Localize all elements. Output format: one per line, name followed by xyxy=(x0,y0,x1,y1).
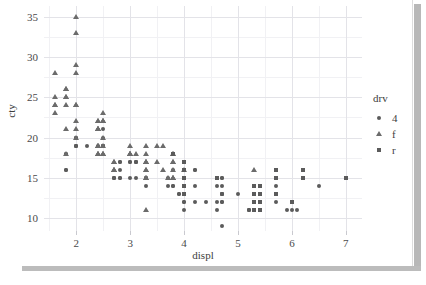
data-point-f xyxy=(73,70,79,75)
page-shadow-right xyxy=(414,4,421,270)
legend: drv 4fr xyxy=(372,92,414,158)
x-tick-label: 3 xyxy=(127,238,133,249)
y-tick-label: 10 xyxy=(27,213,38,224)
y-tick-label: 25 xyxy=(27,92,38,103)
data-point-4 xyxy=(128,160,132,164)
data-point-f xyxy=(111,167,117,172)
data-point-f xyxy=(143,151,149,156)
x-tick-mark xyxy=(238,231,239,235)
legend-label: f xyxy=(386,128,396,140)
data-point-4 xyxy=(112,176,116,180)
data-point-r xyxy=(252,208,256,212)
data-point-f xyxy=(52,110,58,115)
data-point-4 xyxy=(236,192,240,196)
data-point-f xyxy=(95,151,101,156)
data-point-f xyxy=(52,70,58,75)
legend-key-square-icon xyxy=(372,143,386,157)
data-point-f xyxy=(170,167,176,172)
y-tick-label: 30 xyxy=(27,51,38,62)
data-point-f xyxy=(63,102,69,107)
data-point-4 xyxy=(247,208,251,212)
data-point-4 xyxy=(274,184,278,188)
data-point-r xyxy=(301,176,305,180)
gridline-major-vertical xyxy=(292,6,293,231)
data-point-f xyxy=(73,102,79,107)
data-point-4 xyxy=(177,192,181,196)
data-point-r xyxy=(215,176,219,180)
data-point-r xyxy=(182,176,186,180)
gridline-major-horizontal xyxy=(44,218,362,219)
gridline-major-vertical xyxy=(346,6,347,231)
data-point-4 xyxy=(317,184,321,188)
data-point-4 xyxy=(128,176,132,180)
data-point-r xyxy=(274,168,278,172)
data-point-f xyxy=(143,175,149,180)
x-tick-mark xyxy=(184,231,185,235)
screenshot-root: 101520253035 cty 234567 displ drv 4fr xyxy=(0,0,426,285)
data-point-4 xyxy=(182,208,186,212)
data-point-4 xyxy=(74,144,78,148)
data-point-f xyxy=(52,102,58,107)
x-tick-label: 2 xyxy=(74,238,80,249)
data-point-4 xyxy=(101,127,105,131)
data-point-f xyxy=(127,151,133,156)
gridline-major-vertical xyxy=(130,6,131,231)
square-glyph-icon xyxy=(377,148,381,152)
scatter-plot-figure: 101520253035 cty 234567 displ drv 4fr xyxy=(0,0,412,266)
data-point-4 xyxy=(166,184,170,188)
data-point-4 xyxy=(171,184,175,188)
data-point-f xyxy=(73,14,79,19)
data-point-4 xyxy=(64,168,68,172)
data-point-f xyxy=(73,118,79,123)
data-point-4 xyxy=(220,176,224,180)
legend-entries: 4fr xyxy=(372,110,414,158)
data-point-r xyxy=(182,160,186,164)
gridline-minor-horizontal xyxy=(44,77,362,78)
data-point-4 xyxy=(290,208,294,212)
page-edge xyxy=(412,0,413,267)
x-tick-label: 6 xyxy=(289,238,295,249)
legend-title: drv xyxy=(372,92,414,104)
data-point-f xyxy=(251,167,257,172)
y-tick-label: 35 xyxy=(27,11,38,22)
data-point-f xyxy=(170,159,176,164)
legend-entry-4: 4 xyxy=(372,110,414,126)
data-point-r xyxy=(301,168,305,172)
data-point-4 xyxy=(220,192,224,196)
x-tick-label: 5 xyxy=(235,238,241,249)
data-point-4 xyxy=(215,208,219,212)
data-point-f xyxy=(73,30,79,35)
gridline-major-horizontal xyxy=(44,178,362,179)
data-point-4 xyxy=(134,160,138,164)
data-point-f xyxy=(95,126,101,131)
gridline-major-vertical xyxy=(238,6,239,231)
data-point-f xyxy=(143,207,149,212)
triangle-glyph-icon xyxy=(376,131,382,136)
gridline-major-horizontal xyxy=(44,57,362,58)
data-point-4 xyxy=(274,200,278,204)
data-point-r xyxy=(258,200,262,204)
data-point-4 xyxy=(215,184,219,188)
data-point-4 xyxy=(144,184,148,188)
data-point-4 xyxy=(193,184,197,188)
gridline-major-horizontal xyxy=(44,97,362,98)
x-axis-ticks: 234567 xyxy=(44,231,362,251)
data-point-4 xyxy=(220,184,224,188)
data-point-f xyxy=(100,110,106,115)
data-point-4 xyxy=(193,200,197,204)
gridline-major-horizontal xyxy=(44,17,362,18)
data-point-4 xyxy=(220,224,224,228)
data-point-4 xyxy=(193,168,197,172)
data-point-4 xyxy=(118,168,122,172)
data-point-r xyxy=(258,184,262,188)
data-point-f xyxy=(154,159,160,164)
data-point-f xyxy=(160,167,166,172)
y-axis-title: cty xyxy=(5,96,17,126)
data-point-4 xyxy=(285,208,289,212)
data-point-4 xyxy=(204,200,208,204)
data-point-f xyxy=(63,126,69,131)
data-point-4 xyxy=(85,144,89,148)
data-point-r xyxy=(258,208,262,212)
data-point-r xyxy=(252,192,256,196)
legend-entry-f: f xyxy=(372,126,414,142)
